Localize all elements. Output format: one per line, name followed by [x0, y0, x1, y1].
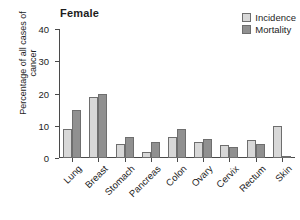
bar-group [89, 94, 107, 159]
bar-incidence [247, 140, 256, 158]
bar-group [116, 137, 134, 158]
y-axis-line [59, 29, 60, 158]
y-axis-tick: 40 [55, 29, 59, 30]
bar-group [220, 145, 238, 158]
bar-group [168, 129, 186, 158]
bar-incidence [63, 129, 72, 158]
bar-group [273, 126, 291, 158]
x-axis-tick [72, 158, 73, 162]
x-axis-label: Skin [273, 163, 294, 184]
cancer-statistics-bar-chart: Female Incidence Mortality Percentage of… [0, 0, 300, 220]
bar-incidence [89, 97, 98, 158]
bar-mortality [177, 129, 186, 158]
y-axis-tick: 10 [55, 126, 59, 127]
x-axis-tick [229, 158, 230, 162]
bar-group [63, 110, 81, 158]
bar-incidence [220, 145, 229, 158]
bar-group [247, 140, 265, 158]
y-axis-tick-label: 40 [38, 24, 49, 35]
bar-mortality [151, 142, 160, 158]
bar-incidence [142, 152, 151, 158]
x-axis-tick [282, 158, 283, 162]
y-axis-tick-label: 30 [38, 56, 49, 67]
bar-mortality [229, 147, 238, 158]
x-axis-tick [203, 158, 204, 162]
bar-mortality [282, 156, 291, 158]
y-axis-tick: 0 [55, 158, 59, 159]
bar-mortality [125, 137, 134, 158]
y-axis-tick-label: 0 [44, 153, 49, 164]
x-axis-label: Rectum [237, 163, 268, 194]
y-axis-tick: 30 [55, 61, 59, 62]
x-axis-tick [151, 158, 152, 162]
bar-incidence [116, 144, 125, 159]
x-axis-tick [98, 158, 99, 162]
bar-mortality [72, 110, 81, 158]
legend-label-incidence: Incidence [255, 13, 296, 23]
x-axis-label: Colon [163, 163, 188, 188]
plot-area: 010203040 [59, 29, 295, 158]
y-axis-tick-label: 20 [38, 88, 49, 99]
x-axis-label: Ovary [189, 163, 215, 189]
x-axis-tick [125, 158, 126, 162]
bar-group [194, 139, 212, 158]
y-axis-tick-label: 10 [38, 120, 49, 131]
x-axis-tick [177, 158, 178, 162]
bar-mortality [98, 94, 107, 159]
x-axis-tick [256, 158, 257, 162]
legend-item-incidence: Incidence [242, 13, 296, 23]
bar-group [142, 142, 160, 158]
bar-mortality [203, 139, 212, 158]
bar-incidence [194, 142, 203, 158]
bar-mortality [256, 144, 265, 159]
chart-title: Female [60, 7, 99, 19]
y-axis-tick: 20 [55, 94, 59, 95]
legend-swatch-incidence [242, 13, 251, 22]
bar-incidence [168, 137, 177, 158]
x-axis-label: Lung [61, 163, 84, 186]
bar-incidence [273, 126, 282, 158]
